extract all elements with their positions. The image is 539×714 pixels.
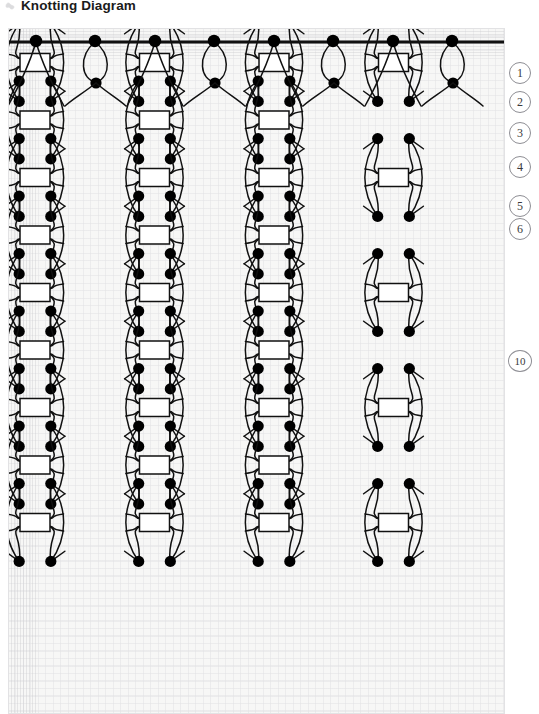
cell-tail-left-upper bbox=[8, 399, 20, 404]
square-knot-box bbox=[20, 514, 50, 532]
page-title: Knotting Diagram bbox=[21, 0, 136, 13]
square-knot-box bbox=[259, 169, 289, 187]
square-knot-box bbox=[20, 399, 50, 417]
step-number-3[interactable]: 3 bbox=[509, 122, 531, 144]
knot-cell-29 bbox=[126, 484, 183, 562]
bead-upper-left bbox=[253, 363, 264, 374]
mounting-bead-1 bbox=[89, 35, 101, 47]
square-knot-box bbox=[259, 284, 289, 302]
square-knot-box bbox=[379, 514, 409, 532]
bead-upper-left bbox=[372, 133, 383, 144]
bead-upper-right bbox=[284, 420, 295, 431]
knot-cell-27 bbox=[245, 426, 302, 504]
mount-drop-right-3 bbox=[215, 83, 245, 106]
bead-upper-left bbox=[253, 133, 264, 144]
step-number-2[interactable]: 2 bbox=[509, 91, 531, 113]
cell-tail-left-lower bbox=[8, 297, 20, 302]
knot-cell-9 bbox=[245, 139, 302, 217]
bead-upper-right bbox=[284, 478, 295, 489]
square-knot-box bbox=[140, 399, 170, 417]
bead-upper-right bbox=[45, 190, 56, 201]
cell-tail-left-upper bbox=[8, 341, 20, 346]
knot-cell-10 bbox=[365, 139, 422, 217]
knot-cell-6 bbox=[245, 81, 302, 159]
mount-loop-left-1 bbox=[83, 42, 96, 82]
mount-drop-left-1 bbox=[65, 83, 96, 106]
bead-upper-left bbox=[14, 133, 25, 144]
knot-cell-11 bbox=[8, 196, 64, 274]
bead-lower-right bbox=[284, 556, 295, 567]
square-knot-box bbox=[140, 169, 170, 187]
bead-upper-right bbox=[404, 133, 415, 144]
mounting-bead-3 bbox=[208, 35, 220, 47]
bead-upper-left bbox=[14, 420, 25, 431]
square-knot-box bbox=[379, 284, 409, 302]
knot-cell-14 bbox=[8, 254, 64, 332]
cell-left-outer-cord bbox=[365, 484, 378, 562]
bead-upper-left bbox=[133, 478, 144, 489]
knot-lattice-svg bbox=[8, 28, 505, 714]
square-knot-box bbox=[259, 456, 289, 474]
mount-drop-right-7 bbox=[453, 83, 483, 106]
square-knot-box bbox=[20, 226, 50, 244]
square-knot-box bbox=[140, 111, 170, 129]
link-up-right bbox=[51, 28, 65, 34]
bead-lower-right bbox=[404, 96, 415, 107]
page-header: Knotting Diagram bbox=[0, 0, 136, 16]
bead-upper-right bbox=[284, 133, 295, 144]
bead-upper-right bbox=[284, 248, 295, 259]
cell-tail-left-upper bbox=[8, 226, 20, 231]
cell-tail-left-lower bbox=[8, 527, 20, 532]
bead-upper-right bbox=[404, 478, 415, 489]
link-up-left bbox=[364, 28, 378, 34]
knot-cell-28 bbox=[8, 484, 64, 562]
cell-right-outer-cord bbox=[409, 139, 422, 217]
cell-left-outer-cord bbox=[365, 139, 378, 217]
square-knot-box bbox=[20, 456, 50, 474]
step-number-6[interactable]: 6 bbox=[509, 218, 531, 240]
cell-tail-left-upper bbox=[8, 169, 20, 174]
bead-lower-left bbox=[372, 556, 383, 567]
bead-upper-right bbox=[45, 363, 56, 374]
bead-upper-left bbox=[14, 305, 25, 316]
bead-upper-right bbox=[45, 478, 56, 489]
step-number-10[interactable]: 10 bbox=[508, 350, 532, 372]
knot-cell-30 bbox=[245, 484, 302, 562]
bead-upper-left bbox=[253, 478, 264, 489]
bead-upper-right bbox=[45, 248, 56, 259]
cell-left-outer-cord bbox=[365, 254, 378, 332]
bead-upper-right bbox=[45, 133, 56, 144]
bead-upper-right bbox=[45, 420, 56, 431]
bead-lower-left bbox=[372, 211, 383, 222]
bead-upper-right bbox=[165, 478, 176, 489]
mounting-bead-0 bbox=[30, 35, 42, 47]
square-knot-box bbox=[140, 226, 170, 244]
bead-upper-left bbox=[133, 420, 144, 431]
step-number-5[interactable]: 5 bbox=[509, 195, 531, 217]
bead-lower-right bbox=[404, 326, 415, 337]
cell-tail-left-upper bbox=[8, 111, 20, 116]
cell-tail-left-upper bbox=[8, 284, 20, 289]
bead-upper-right bbox=[45, 305, 56, 316]
bead-lower-right bbox=[165, 556, 176, 567]
mounting-bead-6 bbox=[387, 35, 399, 47]
mounting-bead-5 bbox=[327, 35, 339, 47]
bead-upper-left bbox=[14, 190, 25, 201]
cell-tail-left-upper bbox=[8, 54, 20, 59]
step-number-4[interactable]: 4 bbox=[509, 156, 531, 178]
square-knot-box bbox=[140, 456, 170, 474]
square-knot-box bbox=[140, 284, 170, 302]
mount-drop-right-1 bbox=[96, 83, 126, 106]
link-up-left bbox=[244, 28, 258, 34]
mounting-bead-2 bbox=[149, 35, 161, 47]
mount-drop-left-5 bbox=[303, 83, 334, 106]
step-number-1[interactable]: 1 bbox=[509, 62, 531, 84]
bead-upper-left bbox=[372, 248, 383, 259]
bead-lower-left bbox=[253, 556, 264, 567]
link-up-right bbox=[409, 28, 423, 34]
bead-upper-left bbox=[372, 363, 383, 374]
bead-upper-left bbox=[14, 363, 25, 374]
knot-cell-21 bbox=[8, 369, 64, 447]
mount-loop-right-1 bbox=[95, 42, 107, 82]
mount-drop-right-5 bbox=[334, 83, 364, 106]
